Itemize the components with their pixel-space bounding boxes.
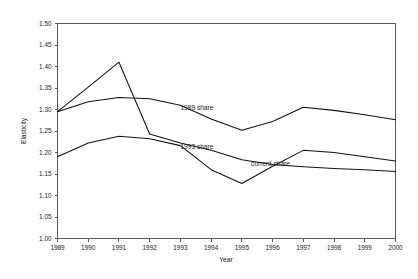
x-tick-label: 1993 — [173, 244, 188, 251]
x-tick-label: 1997 — [296, 244, 311, 251]
series-label-current-share: current share — [251, 160, 290, 167]
x-tick-label: 1999 — [358, 244, 373, 251]
series-label-1993-share: 1993 share — [180, 143, 213, 150]
y-tick-label: 1.40 — [39, 63, 52, 70]
y-tick-label: 1.05 — [39, 213, 52, 220]
x-tick-label: 2000 — [388, 244, 403, 251]
x-tick-label: 1990 — [81, 244, 96, 251]
y-tick-label: 1.50 — [39, 20, 52, 27]
chart-container: 1.001.051.101.151.201.251.301.351.401.45… — [0, 0, 418, 279]
y-axis-title: Elasticity — [20, 117, 28, 144]
x-tick-label: 1996 — [265, 244, 280, 251]
y-tick-label: 1.15 — [39, 170, 52, 177]
y-tick-label: 1.00 — [39, 235, 52, 242]
chart-background — [0, 0, 418, 279]
y-tick-label: 1.45 — [39, 41, 52, 48]
x-tick-label: 1989 — [50, 244, 65, 251]
elasticity-line-chart: 1.001.051.101.151.201.251.301.351.401.45… — [0, 0, 418, 279]
y-tick-label: 1.10 — [39, 192, 52, 199]
x-tick-label: 1994 — [204, 244, 219, 251]
y-tick-label: 1.20 — [39, 149, 52, 156]
x-tick-label: 1995 — [235, 244, 250, 251]
x-tick-label: 1991 — [112, 244, 127, 251]
x-tick-label: 1998 — [327, 244, 342, 251]
y-tick-label: 1.30 — [39, 106, 52, 113]
series-label-1989-share: 1989 share — [180, 104, 213, 111]
x-axis-title: Year — [219, 256, 233, 263]
y-tick-label: 1.25 — [39, 127, 52, 134]
x-tick-label: 1992 — [143, 244, 158, 251]
y-tick-label: 1.35 — [39, 84, 52, 91]
